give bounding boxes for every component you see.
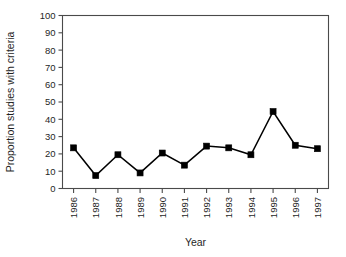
data-point-marker <box>248 152 254 158</box>
x-tick-label: 1987 <box>90 197 101 218</box>
x-tick-label: 1992 <box>201 197 212 218</box>
y-tick-label: 10 <box>45 166 56 177</box>
x-tick-label: 1996 <box>290 197 301 218</box>
data-point-marker <box>181 162 187 168</box>
y-tick-label: 90 <box>45 27 56 38</box>
y-tick-label: 60 <box>45 79 56 90</box>
x-tick-label: 1988 <box>113 197 124 218</box>
x-tick-label: 1990 <box>157 197 168 218</box>
data-point-marker <box>93 173 99 179</box>
y-tick-label: 40 <box>45 114 56 125</box>
x-tick-label: 1993 <box>223 197 234 218</box>
chart-container: 0102030405060708090100198619871988198919… <box>0 0 346 257</box>
y-tick-label: 70 <box>45 62 56 73</box>
x-tick-label: 1994 <box>246 197 257 218</box>
x-tick-label: 1995 <box>268 197 279 218</box>
y-tick-label: 100 <box>40 10 56 21</box>
x-tick-label: 1991 <box>179 197 190 218</box>
data-point-marker <box>314 146 320 152</box>
data-point-marker <box>159 150 165 156</box>
data-point-marker <box>115 152 121 158</box>
data-point-marker <box>204 143 210 149</box>
data-point-marker <box>226 145 232 151</box>
line-chart: 0102030405060708090100198619871988198919… <box>0 0 346 257</box>
data-point-marker <box>292 142 298 148</box>
y-tick-label: 20 <box>45 148 56 159</box>
plot-frame <box>63 16 329 189</box>
y-tick-label: 50 <box>45 96 56 107</box>
x-tick-label: 1997 <box>312 197 323 218</box>
y-axis-title: Proportion studies with criteria <box>4 32 16 173</box>
y-tick-label: 0 <box>50 183 55 194</box>
data-point-marker <box>71 145 77 151</box>
x-axis-title: Year <box>185 236 207 248</box>
y-tick-label: 30 <box>45 131 56 142</box>
y-tick-label: 80 <box>45 45 56 56</box>
data-point-marker <box>270 109 276 115</box>
x-tick-label: 1989 <box>135 197 146 218</box>
x-tick-label: 1986 <box>68 197 79 218</box>
data-point-marker <box>137 170 143 176</box>
